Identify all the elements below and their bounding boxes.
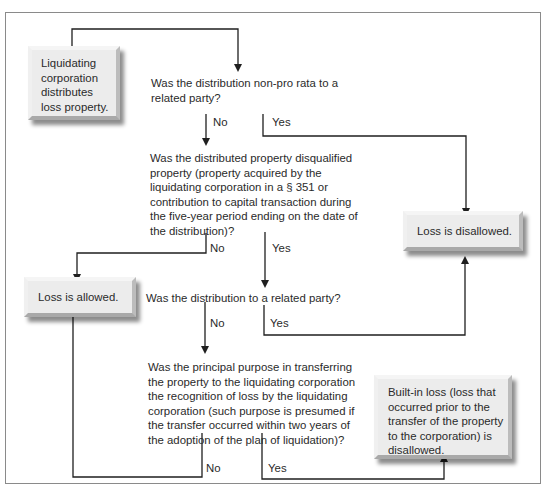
question-principal-purpose: Was the principal purpose in transferrin… (148, 360, 355, 448)
q4-yes-label: Yes (268, 462, 287, 474)
q2-no-label: No (210, 242, 225, 254)
outcome-builtin-loss-disallowed: Built-in loss (loss that occurred prior … (374, 375, 512, 459)
q1-no-label: No (213, 116, 228, 128)
outcome-loss-disallowed: Loss is disallowed. (403, 211, 523, 251)
question-related-party: Was the distribution to a related party? (146, 291, 341, 306)
question-line: Was the distribution non-pro rata to a (151, 76, 338, 91)
edge-q2-no (77, 233, 206, 274)
question-line: Was the distributed property disqualifie… (150, 151, 358, 166)
question-line: Was the principal purpose in transferrin… (148, 360, 355, 375)
outcome-line: occurred prior to the (388, 400, 508, 415)
start-line: loss property. (41, 100, 116, 115)
question-line: the recognition of loss by the liquidati… (148, 389, 355, 404)
question-line: corporation (such purpose is presumed if (148, 404, 355, 419)
q3-yes-label: Yes (270, 317, 289, 329)
outcome-loss-allowed: Loss is allowed. (24, 277, 136, 317)
question-line: liquidating corporation in a § 351 or (150, 180, 358, 195)
question-line: property (property acquired by the (150, 166, 358, 181)
arrowhead-icon (261, 280, 269, 288)
arrowhead-icon (202, 138, 210, 146)
question-line: Was the distribution to a related party? (146, 291, 341, 306)
question-line: the distribution)? (150, 224, 358, 239)
question-line: the five-year period ending on the date … (150, 209, 358, 224)
question-non-pro-rata: Was the distribution non-pro rata to a r… (151, 76, 338, 105)
start-line: corporation (41, 71, 116, 86)
outcome-text: Loss is disallowed. (417, 225, 512, 237)
start-box: Liquidating corporation distributes loss… (28, 46, 120, 120)
question-disqualified-property: Was the distributed property disqualifie… (150, 151, 358, 239)
start-line: distributes (41, 85, 116, 100)
q2-yes-label: Yes (272, 242, 291, 254)
q3-no-label: No (210, 317, 225, 329)
start-line: Liquidating (41, 56, 116, 71)
q4-no-label: No (206, 462, 221, 474)
q1-yes-label: Yes (272, 116, 291, 128)
question-line: related party? (151, 91, 338, 106)
question-line: the transfer occurred within two years o… (148, 418, 355, 433)
outcome-line: to the corporation) is (388, 429, 508, 444)
question-line: the property to the liquidating corporat… (148, 375, 355, 390)
outcome-line: disallowed. (388, 443, 508, 458)
outcome-text: Loss is allowed. (38, 291, 118, 303)
question-line: contribution to capital transaction duri… (150, 195, 358, 210)
arrowhead-icon (201, 346, 209, 354)
arrowhead-icon (234, 64, 242, 72)
question-line: the adoption of the plan of liquidation)… (148, 433, 355, 448)
outcome-line: Built-in loss (loss that (388, 385, 508, 400)
arrowhead-icon (461, 256, 469, 264)
outcome-line: transfer of the property (388, 414, 508, 429)
